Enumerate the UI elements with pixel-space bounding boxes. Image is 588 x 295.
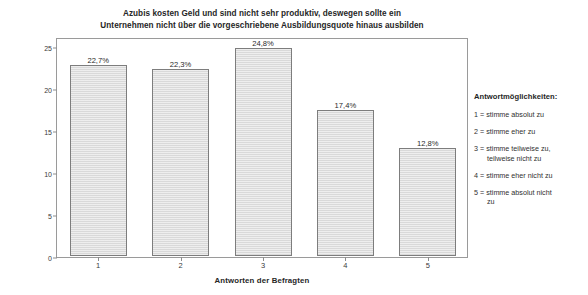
legend-item: 2 = stimme eher zu: [474, 127, 584, 137]
chart-title-line-1: Azubis kosten Geld und sind nicht sehr p…: [56, 8, 468, 20]
x-tick-label: 2: [161, 261, 201, 270]
x-axis-title: Antworten der Befragten: [56, 276, 468, 285]
bar-value-label: 24,8%: [228, 39, 298, 48]
legend-item: 3 = stimme teilweise zu,teilweise nicht …: [474, 144, 584, 163]
legend-item-text-cont: zu: [474, 197, 584, 207]
legend-item: 5 = stimme absolut nichtzu: [474, 188, 584, 207]
plot-inner: 051015202522,7%122,3%224,8%317,4%412,8%5: [57, 39, 467, 257]
y-tick-label: 25: [31, 45, 57, 52]
chart-figure: Azubis kosten Geld und sind nicht sehr p…: [0, 0, 588, 295]
x-tick-label: 5: [408, 261, 448, 270]
plot-area: 051015202522,7%122,3%224,8%317,4%412,8%5: [56, 38, 468, 258]
legend-item-text-cont: teilweise nicht zu: [474, 154, 584, 164]
legend-item-text: 3 = stimme teilweise zu,: [474, 144, 551, 153]
legend-item-text: 2 = stimme eher zu: [474, 127, 535, 136]
bar-value-label: 12,8%: [393, 139, 463, 148]
legend-item-text: 4 = stimme eher nicht zu: [474, 171, 553, 180]
x-tick-label: 3: [243, 261, 283, 270]
y-tick-label: 5: [31, 213, 57, 220]
y-tick-label: 0: [31, 255, 57, 262]
y-tick-label: 10: [31, 171, 57, 178]
chart-title: Azubis kosten Geld und sind nicht sehr p…: [56, 8, 468, 31]
legend: Antwortmöglichkeiten: 1 = stimme absolut…: [474, 92, 584, 214]
bar: [317, 110, 374, 256]
x-tick-label: 4: [325, 261, 365, 270]
legend-title: Antwortmöglichkeiten:: [474, 92, 584, 101]
bar: [399, 148, 456, 256]
chart-title-line-2: Unternehmen nicht über die vorgeschriebe…: [56, 20, 468, 32]
legend-item-list: 1 = stimme absolut zu2 = stimme eher zu3…: [474, 110, 584, 207]
bar-value-label: 22,3%: [146, 60, 216, 69]
legend-item: 1 = stimme absolut zu: [474, 110, 584, 120]
bar-value-label: 17,4%: [310, 101, 380, 110]
bar: [152, 69, 209, 256]
x-tick-label: 1: [78, 261, 118, 270]
legend-item: 4 = stimme eher nicht zu: [474, 171, 584, 181]
y-tick-label: 20: [31, 87, 57, 94]
bar-value-label: 22,7%: [63, 56, 133, 65]
y-tick-label: 15: [31, 129, 57, 136]
bar: [70, 65, 127, 256]
bar: [235, 48, 292, 256]
legend-item-text: 5 = stimme absolut nicht: [474, 188, 552, 197]
legend-item-text: 1 = stimme absolut zu: [474, 110, 544, 119]
